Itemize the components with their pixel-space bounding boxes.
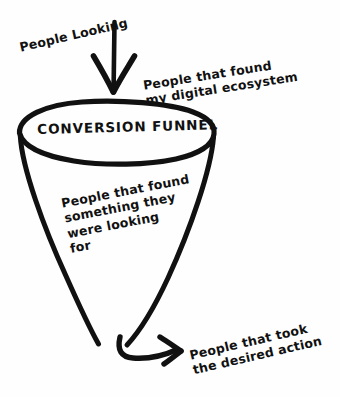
conversion-funnel-diagram: People Looking People that found my digi…: [0, 0, 340, 397]
